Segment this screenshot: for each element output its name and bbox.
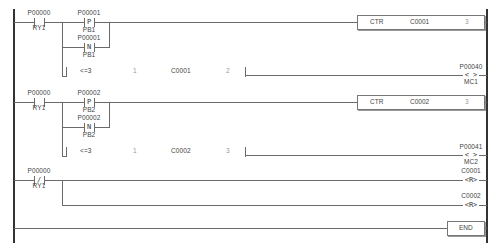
right-power-rail — [486, 9, 488, 243]
ctr-instruction-c0002[interactable]: CTR C0002 3 — [357, 95, 485, 110]
ctr-instruction-c0001[interactable]: CTR C0001 3 — [357, 15, 485, 30]
left-power-rail — [13, 9, 15, 243]
end-instruction[interactable]: END — [447, 221, 485, 236]
